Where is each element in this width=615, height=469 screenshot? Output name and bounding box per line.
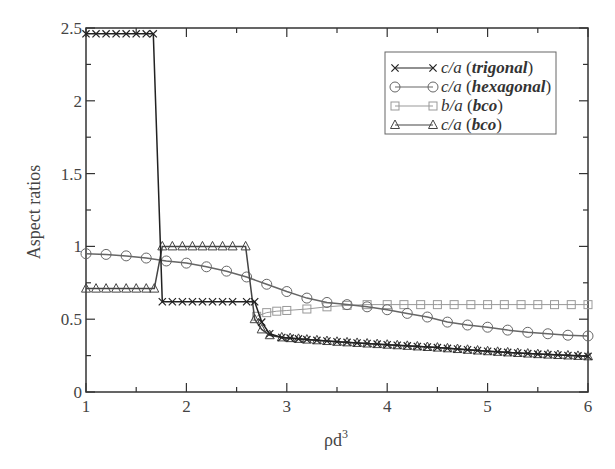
series-circle: [81, 249, 593, 341]
x-tick-label: 4: [383, 397, 392, 416]
x-tick-label: 6: [584, 397, 593, 416]
x-axis-title-superscript: 3: [342, 427, 348, 441]
legend: c/a (trigonal)c/a (hexagonal)b/a (bco)c/…: [385, 52, 556, 134]
x-axis-title: ρd3: [324, 427, 348, 450]
legend-label: b/a (bco): [441, 96, 503, 115]
x-tick-label: 3: [283, 397, 292, 416]
y-tick-label: 2: [74, 92, 83, 111]
legend-label: c/a (hexagonal): [441, 77, 551, 96]
x-tick-labels: 123456: [82, 397, 593, 416]
aspect-ratio-chart: 123456 00.511.522.5 ρd3 Aspect ratios c/…: [0, 0, 615, 469]
y-tick-label: 1.5: [61, 165, 82, 184]
x-axis-title-base: ρd: [324, 430, 342, 450]
x-tick-label: 1: [82, 397, 91, 416]
y-tick-label: 2.5: [61, 19, 82, 38]
y-tick-label: 0: [74, 383, 83, 402]
y-tick-labels: 00.511.522.5: [61, 19, 82, 402]
y-axis-title: Aspect ratios: [24, 165, 44, 259]
x-tick-label: 5: [483, 397, 492, 416]
legend-label: c/a (trigonal): [441, 58, 533, 77]
series-line: [257, 305, 588, 317]
legend-label: c/a (bco): [441, 115, 502, 134]
y-tick-label: 0.5: [61, 310, 82, 329]
x-tick-label: 2: [182, 397, 191, 416]
